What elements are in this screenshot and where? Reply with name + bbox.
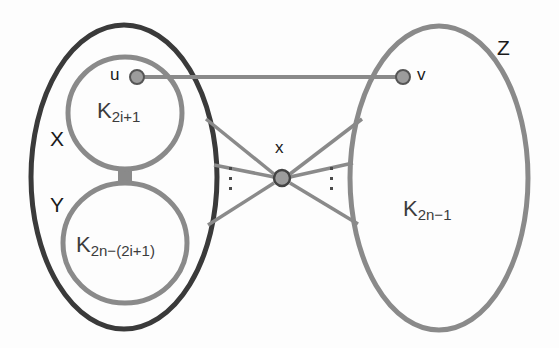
vertex-label-x: x [275,139,284,156]
vertical-ellipsis-right-icon [330,167,333,190]
figure-canvas: X Y Z u v x K2i+1 K2n−(2i+1) K2n−1 [0,0,559,348]
clique-label-lower-subscript: 2n−(2i+1) [91,242,155,259]
clique-label-lower-base: K [76,232,91,257]
vertex-u[interactable] [130,70,144,84]
set-ellipse-Z [350,26,528,330]
vertical-ellipsis-left-icon [229,167,232,190]
set-label-Z: Z [497,37,510,58]
set-label-Y: Y [50,194,64,215]
clique-label-right-base: K [403,196,418,221]
graph-diagram-svg [0,0,559,348]
vertex-v[interactable] [396,70,410,84]
clique-label-upper: K2i+1 [97,100,140,122]
vertex-x[interactable] [274,170,290,186]
clique-label-right: K2n−1 [403,198,451,220]
clique-label-lower: K2n−(2i+1) [76,234,155,256]
set-label-X: X [50,128,64,149]
vertex-label-v: v [417,66,426,83]
clique-label-right-subscript: 2n−1 [418,206,452,223]
clique-label-upper-base: K [97,98,112,123]
vertex-label-u: u [110,66,119,83]
clique-label-upper-subscript: 2i+1 [112,108,141,125]
